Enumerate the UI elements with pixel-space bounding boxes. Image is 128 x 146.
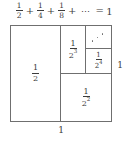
fraction-numerator: 1 bbox=[33, 64, 38, 72]
plus-operator-2: + bbox=[47, 6, 55, 16]
cell-one-quarter: 1 22 bbox=[61, 73, 111, 121]
denominator-exponent: 3 bbox=[74, 48, 78, 54]
fraction-denominator: 24 bbox=[95, 61, 103, 70]
fraction-numerator: 1 bbox=[37, 2, 44, 10]
denominator-exponent: 2 bbox=[87, 96, 91, 102]
fraction-denominator: 2 bbox=[33, 74, 38, 83]
dot-1 bbox=[92, 40, 94, 42]
cell-one-eighth: 1 23 bbox=[61, 26, 86, 73]
height-label: 1 bbox=[115, 61, 125, 70]
fraction-one-quarter: 1 4 bbox=[37, 2, 44, 20]
fraction-numerator: 1 bbox=[96, 52, 100, 59]
cell-label-one-quarter: 1 22 bbox=[82, 88, 91, 108]
fraction-one-eighth: 1 8 bbox=[58, 2, 65, 20]
fraction-denominator: 2 bbox=[16, 12, 23, 20]
equation-result: 1 bbox=[106, 6, 112, 17]
width-label: 1 bbox=[56, 126, 66, 135]
series-equation: 1 2 + 1 4 + 1 8 + ⋯ = 1 bbox=[0, 2, 128, 20]
fraction-denominator: 4 bbox=[37, 12, 44, 20]
fraction-numerator: 1 bbox=[83, 88, 88, 96]
dot-3 bbox=[102, 33, 104, 35]
cell-label-one-eighth: 1 23 bbox=[69, 40, 78, 60]
fraction-denominator: 8 bbox=[58, 12, 65, 20]
geometric-series-figure: 1 2 + 1 4 + 1 8 + ⋯ = 1 1 2 bbox=[0, 0, 128, 146]
unit-square-diagram: 1 2 1 22 1 23 1 24 bbox=[10, 25, 112, 122]
equals-operator: = bbox=[95, 6, 103, 16]
cell-one-sixteenth: 1 24 bbox=[86, 48, 111, 73]
fraction-numerator: 1 bbox=[70, 40, 75, 48]
fraction-denominator: 22 bbox=[82, 98, 91, 108]
ellipsis-icon: ⋯ bbox=[81, 7, 91, 17]
plus-operator-3: + bbox=[68, 6, 76, 16]
fraction-denominator: 23 bbox=[69, 50, 78, 60]
diagonal-ellipsis-icon bbox=[91, 31, 107, 43]
plus-operator-1: + bbox=[26, 6, 34, 16]
dot-2 bbox=[97, 37, 99, 39]
cell-continuation bbox=[86, 26, 111, 48]
fraction-one-half: 1 2 bbox=[16, 2, 23, 20]
cell-label-one-half: 1 2 bbox=[32, 64, 39, 83]
fraction-numerator: 1 bbox=[16, 2, 23, 10]
cell-label-one-sixteenth: 1 24 bbox=[95, 52, 103, 70]
fraction-numerator: 1 bbox=[58, 2, 65, 10]
denominator-exponent: 4 bbox=[99, 59, 102, 65]
cell-one-half: 1 2 bbox=[11, 26, 61, 121]
